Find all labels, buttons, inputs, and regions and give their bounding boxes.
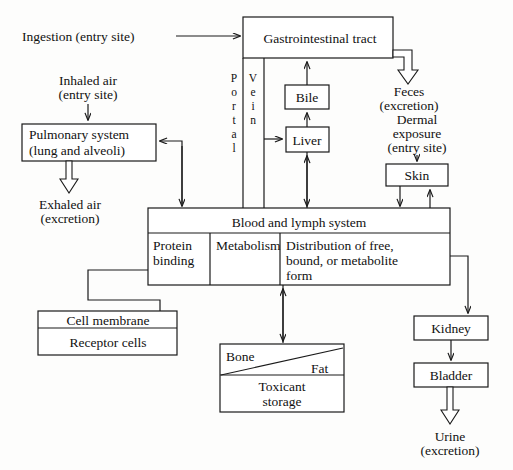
- bile-label: Bile: [296, 90, 319, 105]
- feces-label-line1: Feces: [394, 84, 425, 99]
- metabolism-label: Metabolism: [216, 238, 281, 253]
- portal-letter-3: t: [232, 114, 236, 126]
- exhaled-air-label-line2: (excretion): [40, 211, 99, 226]
- distribution-label-line2: bound, or metabolite: [286, 253, 398, 268]
- blood-to-pulmonary-arrow: [160, 141, 182, 204]
- vein-letter-0: V: [249, 72, 258, 84]
- urine-arrow: [441, 387, 459, 424]
- feces-arrow: [393, 50, 418, 84]
- pulmonary-label-line2: (lung and alveoli): [29, 143, 125, 158]
- kidney-label: Kidney: [431, 321, 471, 336]
- portal-letter-2: r: [232, 100, 236, 112]
- inhaled-air-label-line2: (entry site): [59, 87, 118, 102]
- dermal-label-line3: (entry site): [388, 140, 447, 155]
- bladder-label: Bladder: [430, 368, 473, 383]
- toxicant-storage-label-line1: Toxicant: [258, 379, 305, 394]
- portal-letter-1: o: [231, 86, 237, 98]
- exhaled-air-arrow: [60, 161, 78, 193]
- protein-binding-label-line2: binding: [153, 253, 195, 268]
- portal-vein-label: P o r t a l V e i n: [231, 72, 258, 154]
- gi-tract-label: Gastrointestinal tract: [264, 31, 377, 46]
- vein-letter-2: i: [251, 100, 254, 112]
- distribution-label-line1: Distribution of free,: [286, 238, 394, 253]
- vein-letter-1: e: [250, 86, 255, 98]
- dermal-label-line2: exposure: [393, 126, 442, 141]
- blood-to-kidney-arrow: [450, 256, 468, 313]
- toxicant-storage-label-line2: storage: [263, 394, 302, 409]
- diagram-canvas: P o r t a l V e i n Ingestion (entry sit…: [0, 0, 513, 470]
- urine-label-line1: Urine: [435, 429, 466, 444]
- urine-label-line2: (excretion): [420, 443, 479, 458]
- skin-label: Skin: [405, 168, 430, 183]
- receptor-cells-label: Receptor cells: [70, 335, 147, 350]
- portal-letter-5: l: [232, 142, 235, 154]
- portal-letter-0: P: [231, 72, 237, 84]
- dermal-label-line1: Dermal: [397, 112, 438, 127]
- pulmonary-label-line1: Pulmonary system: [29, 127, 130, 142]
- cell-membrane-label: Cell membrane: [67, 313, 150, 328]
- exhaled-air-label-line1: Exhaled air: [39, 197, 101, 212]
- liver-label: Liver: [292, 133, 322, 148]
- blood-lymph-label: Blood and lymph system: [232, 215, 367, 230]
- inhaled-air-label-line1: Inhaled air: [59, 73, 118, 88]
- distribution-label-line3: form: [286, 268, 313, 283]
- vein-letter-3: n: [250, 114, 256, 126]
- protein-binding-label-line1: Protein: [153, 238, 192, 253]
- fat-label: Fat: [311, 361, 329, 376]
- bone-label: Bone: [226, 349, 255, 364]
- feces-label-line2: (excretion): [379, 98, 438, 113]
- ingestion-label: Ingestion (entry site): [22, 29, 134, 44]
- portal-letter-4: a: [231, 128, 236, 140]
